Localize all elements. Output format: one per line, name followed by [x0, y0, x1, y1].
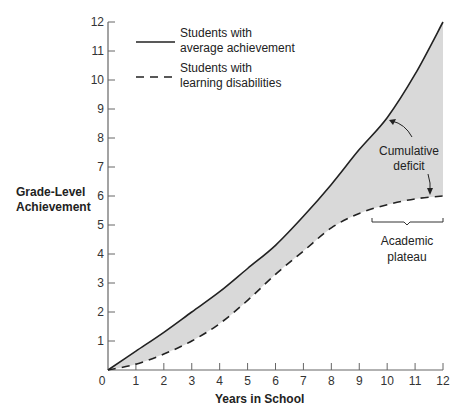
deficit-label-1: Cumulative [379, 144, 439, 158]
y-tick-label: 5 [97, 218, 104, 232]
legend-dashed-label-2: learning disabilities [180, 76, 281, 90]
x-tick-label: 0 [99, 374, 106, 388]
y-tick-label: 3 [97, 276, 104, 290]
y-tick-label: 12 [91, 15, 105, 29]
x-tick-label: 6 [272, 374, 279, 388]
plateau-label-2: plateau [387, 250, 426, 264]
legend-solid-label-1: Students with [180, 26, 252, 40]
x-tick-label: 4 [216, 374, 223, 388]
x-axis-title: Years in School [215, 392, 304, 406]
x-tick-label: 7 [300, 374, 307, 388]
chart-svg: 1234567891011120123456789101112 Students… [0, 0, 462, 417]
academic-plateau-annotation: Academic plateau [372, 218, 443, 264]
x-tick-label: 2 [160, 374, 167, 388]
y-tick-label: 4 [97, 247, 104, 261]
x-tick-label: 12 [436, 374, 450, 388]
y-axis-title-2: Achievement [16, 200, 91, 214]
plateau-bracket [372, 218, 443, 225]
x-tick-label: 1 [133, 374, 140, 388]
y-tick-label: 7 [97, 160, 104, 174]
y-tick-label: 6 [97, 189, 104, 203]
x-tick-label: 3 [188, 374, 195, 388]
y-tick-label: 2 [97, 305, 104, 319]
y-tick-label: 10 [91, 73, 105, 87]
x-tick-label: 5 [244, 374, 251, 388]
y-tick-label: 9 [97, 102, 104, 116]
legend-solid-label-2: average achievement [180, 41, 295, 55]
y-tick-label: 11 [92, 44, 105, 58]
x-tick-label: 11 [409, 374, 422, 388]
x-tick-label: 8 [328, 374, 335, 388]
x-tick-label: 9 [356, 374, 363, 388]
y-axis-title-1: Grade-Level [16, 185, 85, 199]
x-tick-label: 10 [380, 374, 394, 388]
plateau-label-1: Academic [381, 234, 434, 248]
deficit-fill [108, 22, 443, 370]
y-tick-label: 1 [97, 334, 104, 348]
legend: Students with average achievement Studen… [136, 26, 295, 90]
legend-dashed-label-1: Students with [180, 61, 252, 75]
y-tick-label: 8 [97, 131, 104, 145]
cumulative-deficit-area [108, 22, 443, 370]
deficit-label-2: deficit [393, 159, 425, 173]
